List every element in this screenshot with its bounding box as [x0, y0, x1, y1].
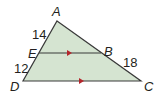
length-label-ed: 12	[14, 61, 28, 76]
length-label-bc: 18	[123, 55, 137, 70]
vertex-label-e: E	[28, 46, 37, 61]
vertex-label-d: D	[10, 79, 19, 93]
vertex-label-c: C	[144, 79, 154, 93]
vertex-label-a: A	[51, 4, 61, 19]
triangle-diagram: A E B D C 14 12 18	[0, 0, 158, 93]
vertex-label-b: B	[104, 44, 113, 59]
length-label-ae: 14	[32, 27, 46, 42]
